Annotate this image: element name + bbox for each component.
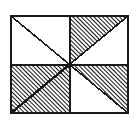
figure-container <box>0 0 140 125</box>
pinwheel-figure <box>0 0 140 125</box>
